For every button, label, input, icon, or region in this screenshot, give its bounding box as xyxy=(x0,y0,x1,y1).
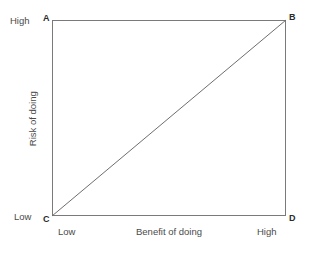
y-axis-tick-high: High xyxy=(10,16,30,26)
x-axis-tick-low: Low xyxy=(58,227,75,237)
risk-benefit-diagram: A B C D High Low Low High Risk of doing … xyxy=(0,0,313,255)
x-axis-tick-high: High xyxy=(257,227,277,237)
vertex-label-d: D xyxy=(289,214,296,223)
y-axis-tick-low: Low xyxy=(14,212,31,222)
y-axis-title: Risk of doing xyxy=(28,84,38,154)
vertex-label-c: C xyxy=(43,215,50,224)
vertex-label-b: B xyxy=(289,13,296,22)
vertex-label-a: A xyxy=(43,14,50,23)
diagonal-line xyxy=(52,20,286,216)
x-axis-title: Benefit of doing xyxy=(104,227,234,237)
